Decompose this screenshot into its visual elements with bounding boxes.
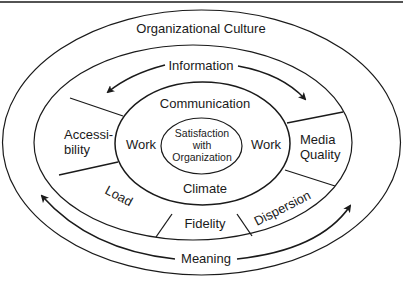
label-accessibility-2: bility [64, 142, 91, 157]
meaning-arrow-left-icon [42, 196, 175, 259]
label-accessibility-1: Accessi- [64, 127, 113, 142]
label-dispersion: Dispersion [252, 187, 314, 228]
label-media-quality-2: Quality [300, 147, 341, 162]
label-media-quality-1: Media [300, 132, 336, 147]
label-load: Load [103, 182, 136, 209]
divider-lower-right [285, 170, 335, 186]
label-organizational-culture: Organizational Culture [136, 21, 265, 36]
label-information: Information [168, 58, 233, 73]
label-fidelity: Fidelity [184, 216, 226, 231]
divider-bottom-right [237, 214, 252, 236]
label-satisfaction: Satisfaction [175, 127, 229, 139]
label-meaning: Meaning [181, 251, 231, 266]
label-organization: Organization [172, 151, 232, 163]
information-arrow-right-icon [238, 66, 305, 99]
label-communication: Communication [160, 96, 250, 111]
information-arrow-left-icon [108, 65, 165, 92]
divider-lower-left [59, 162, 118, 175]
divider-upper-right [287, 112, 343, 123]
organizational-culture-diagram: Organizational Culture Information Meani… [0, 0, 403, 284]
label-with: with [192, 139, 212, 151]
label-work-right: Work [251, 137, 282, 152]
label-work-left: Work [126, 137, 157, 152]
divider-bottom-left [156, 214, 172, 237]
label-climate: Climate [183, 181, 227, 196]
divider-upper-left [70, 98, 123, 116]
